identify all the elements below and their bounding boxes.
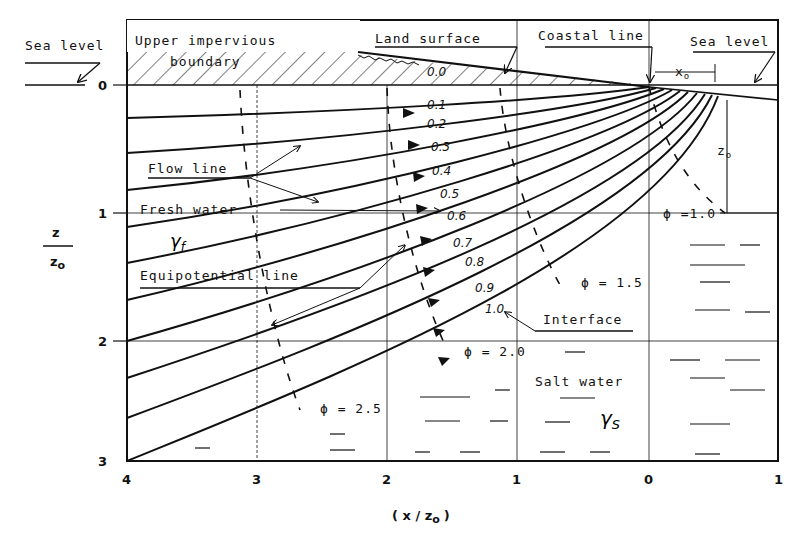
gamma-f-label: γf: [170, 230, 187, 254]
svg-text:0.7: 0.7: [453, 236, 472, 250]
y-axis-label-denominator: zo: [50, 254, 66, 272]
svg-text:0.4: 0.4: [432, 164, 451, 178]
upper-impervious-label: Upper impervious: [135, 33, 276, 48]
svg-text:0.9: 0.9: [475, 281, 494, 295]
flow-line-label: Flow line: [148, 161, 227, 176]
y-axis-label-numerator: z: [52, 225, 60, 240]
svg-text:0.0: 0.0: [427, 65, 446, 79]
phi-2-label: ϕ = 2.0: [464, 344, 526, 359]
svg-text:1: 1: [512, 472, 521, 487]
sea-level-left-label: Sea level: [25, 38, 104, 85]
svg-text:4: 4: [122, 472, 131, 487]
x-axis-label: ( x / zo): [392, 508, 450, 526]
svg-text:0.5: 0.5: [440, 187, 459, 201]
salt-water-label: Salt water: [535, 374, 623, 389]
gamma-s-label: γS: [600, 406, 620, 432]
equipotential-line-label: Equipotential line: [140, 268, 299, 283]
svg-text:1: 1: [774, 472, 783, 487]
svg-text:0: 0: [98, 78, 107, 93]
svg-text:2: 2: [382, 472, 391, 487]
svg-text:3: 3: [98, 454, 107, 469]
svg-text:0: 0: [644, 472, 653, 487]
svg-text:0.3: 0.3: [431, 140, 450, 154]
interface-label: Interface: [543, 312, 622, 327]
x0-label: xo: [675, 64, 690, 81]
svg-text:0.8: 0.8: [465, 255, 484, 269]
svg-text:0.2: 0.2: [427, 117, 446, 131]
coastal-line-label: Coastal line: [538, 28, 644, 43]
phi-1-label: ϕ =1.0: [663, 206, 716, 221]
svg-text:1: 1: [98, 206, 107, 221]
fresh-water-label: Fresh water: [140, 202, 237, 217]
svg-text:0.1: 0.1: [427, 98, 446, 112]
svg-text:Sea level: Sea level: [25, 38, 104, 53]
sea-level-right-label: Sea level: [690, 34, 769, 49]
equipotential-lines: [240, 87, 725, 410]
svg-text:1.0: 1.0: [485, 302, 504, 316]
phi-2-5-label: ϕ = 2.5: [320, 401, 382, 416]
phi-1-5-label: ϕ = 1.5: [581, 275, 643, 290]
z0-label: zo: [717, 143, 732, 160]
land-surface-label: Land surface: [375, 31, 481, 46]
boundary-label: boundary: [170, 54, 241, 69]
svg-text:2: 2: [98, 334, 107, 349]
svg-text:0.6: 0.6: [447, 209, 466, 223]
svg-text:3: 3: [252, 472, 261, 487]
x-axis: 4 3 2 1 0 1 ( x / zo): [122, 472, 783, 526]
seawater-intrusion-flow-net: Sea level Upper impervious boundary Land…: [0, 0, 800, 541]
y-axis: 0 1 2 3 z zo: [43, 78, 127, 469]
